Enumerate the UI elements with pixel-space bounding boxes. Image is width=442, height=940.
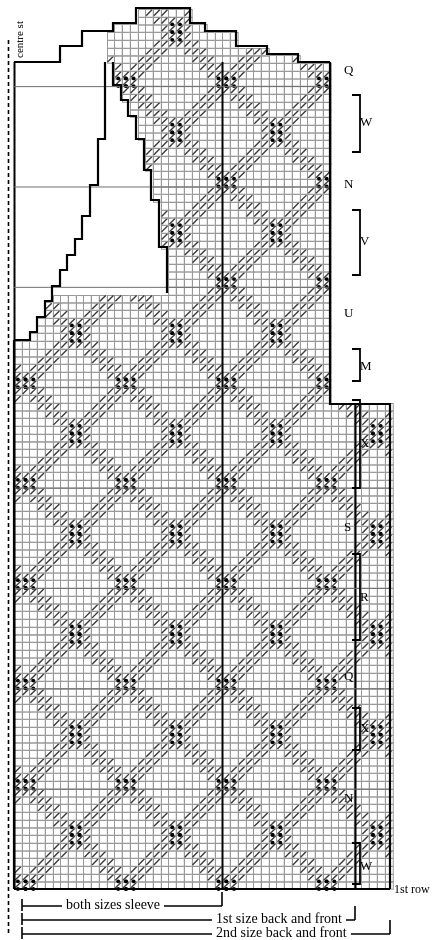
side-label-n-2: N <box>344 177 353 190</box>
side-label-x-10: X <box>360 721 369 734</box>
side-label-r-8: R <box>360 590 369 603</box>
side-label-s-7: S <box>344 520 351 533</box>
legend-label-1: 1st size back and front <box>212 912 346 926</box>
side-label-x-6: X <box>360 436 369 449</box>
side-label-w-1: W <box>360 115 372 128</box>
side-label-m-5: M <box>360 359 372 372</box>
stitch-grid-canvas <box>0 0 442 940</box>
side-label-v-3: V <box>360 234 369 247</box>
legend-label-0: both sizes sleeve <box>62 898 164 912</box>
legend-label-2: 2nd size back and front <box>212 926 351 940</box>
side-label-w-12: W <box>360 859 372 872</box>
side-label-q-0: Q <box>344 63 353 76</box>
stitch-chart-root: centre stQWNVUMXSRQXNW1st rowboth sizes … <box>0 0 442 940</box>
side-label-n-11: N <box>344 791 353 804</box>
side-label-q-9: Q <box>344 669 353 682</box>
side-label-u-4: U <box>344 306 353 319</box>
first-row-label: 1st row <box>394 883 430 895</box>
centre-stitch-label: centre st <box>14 21 25 58</box>
